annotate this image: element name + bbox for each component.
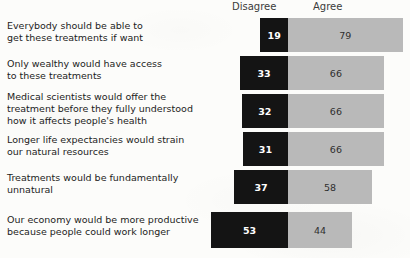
bar-segment-disagree: 31 bbox=[243, 132, 288, 166]
chart-row: Medical scientists would offer the treat… bbox=[0, 94, 410, 128]
bar-value-disagree: 31 bbox=[259, 144, 272, 155]
bar-segment-disagree: 19 bbox=[260, 18, 288, 52]
bar-value-disagree: 37 bbox=[255, 182, 268, 193]
bar-segment-agree: 44 bbox=[288, 212, 352, 248]
bar-segment-agree: 79 bbox=[288, 18, 403, 52]
bar-track: 3266 bbox=[0, 94, 410, 128]
bar-segment-disagree: 37 bbox=[234, 170, 288, 204]
chart-row: Only wealthy would have access to these … bbox=[0, 56, 410, 90]
bar-value-agree: 66 bbox=[330, 106, 342, 117]
bar-segment-agree: 58 bbox=[288, 170, 372, 204]
column-header-agree: Agree bbox=[313, 0, 342, 14]
chart-row: Treatments would be fundamentally unnatu… bbox=[0, 170, 410, 204]
chart-row: Longer life expectancies would strain ou… bbox=[0, 132, 410, 166]
bar-value-agree: 44 bbox=[314, 225, 326, 236]
bar-value-disagree: 33 bbox=[257, 68, 270, 79]
column-header-disagree: Disagree bbox=[232, 0, 276, 14]
bar-track: 3366 bbox=[0, 56, 410, 90]
bar-value-disagree: 53 bbox=[243, 225, 256, 236]
bar-track: 1979 bbox=[0, 18, 410, 52]
bar-segment-disagree: 32 bbox=[242, 94, 288, 128]
bar-value-agree: 79 bbox=[339, 30, 351, 41]
bar-value-agree: 58 bbox=[324, 182, 336, 193]
bar-segment-agree: 66 bbox=[288, 94, 384, 128]
bar-track: 5344 bbox=[0, 212, 410, 248]
bar-segment-disagree: 33 bbox=[240, 56, 288, 90]
bar-value-agree: 66 bbox=[330, 68, 342, 79]
bar-track: 3758 bbox=[0, 170, 410, 204]
chart-row: Everybody should be able to get these tr… bbox=[0, 18, 410, 52]
bar-value-disagree: 19 bbox=[268, 30, 281, 41]
bar-value-disagree: 32 bbox=[258, 106, 271, 117]
bar-segment-agree: 66 bbox=[288, 56, 384, 90]
bar-track: 3166 bbox=[0, 132, 410, 166]
bar-segment-disagree: 53 bbox=[211, 212, 288, 248]
bar-segment-agree: 66 bbox=[288, 132, 384, 166]
bar-value-agree: 66 bbox=[330, 144, 342, 155]
diverging-bar-chart: Disagree Agree Everybody should be able … bbox=[0, 0, 410, 258]
chart-row: Our economy would be more productive bec… bbox=[0, 212, 410, 248]
